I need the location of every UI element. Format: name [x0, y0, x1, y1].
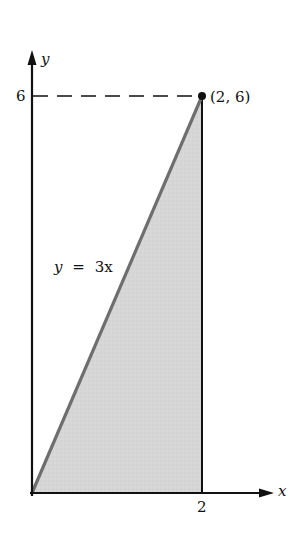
x-axis-label: x [278, 484, 286, 499]
curve-label-lhs: y [54, 258, 62, 276]
y-tick-label-6: 6 [16, 89, 26, 104]
y-axis-label: y [41, 52, 49, 67]
x-axis-arrow-icon [259, 489, 274, 498]
curve-label-rhs: 3x [95, 258, 113, 276]
x-tick-label-2: 2 [197, 500, 207, 515]
y-axis-arrow-icon [28, 50, 37, 65]
curve-label-eq: = [72, 258, 85, 276]
figure-canvas [0, 0, 300, 540]
point-label: (2, 6) [210, 90, 250, 105]
curve-label: y = 3x [54, 260, 113, 275]
point-2-6 [198, 92, 206, 100]
